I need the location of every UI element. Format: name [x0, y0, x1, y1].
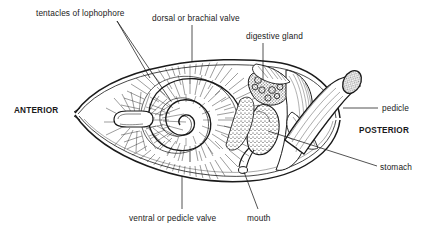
label-posterior: POSTERIOR — [359, 126, 409, 136]
leader-mouth — [244, 172, 258, 209]
label-ventral-or-pedicle-valve: ventral or pedicle valve — [129, 213, 216, 223]
leader-tentacles-b — [117, 21, 171, 101]
label-mouth: mouth — [247, 213, 271, 223]
label-anterior: ANTERIOR — [14, 106, 58, 116]
anterior-apex — [74, 108, 80, 120]
diagram-canvas: tentacles of lophophore dorsal or brachi… — [0, 0, 428, 235]
brachiopod-anatomy-illustration — [0, 0, 428, 235]
label-pedicle: pedicle — [382, 103, 409, 113]
label-stomach: stomach — [380, 162, 412, 172]
leader-tentacles-a — [117, 21, 150, 78]
label-digestive-gland: digestive gland — [246, 31, 303, 41]
label-dorsal-or-brachial-valve: dorsal or brachial valve — [152, 13, 240, 23]
anterior-lophophore-loop — [114, 111, 153, 127]
label-tentacles-of-lophophore: tentacles of lophophore — [36, 8, 125, 18]
